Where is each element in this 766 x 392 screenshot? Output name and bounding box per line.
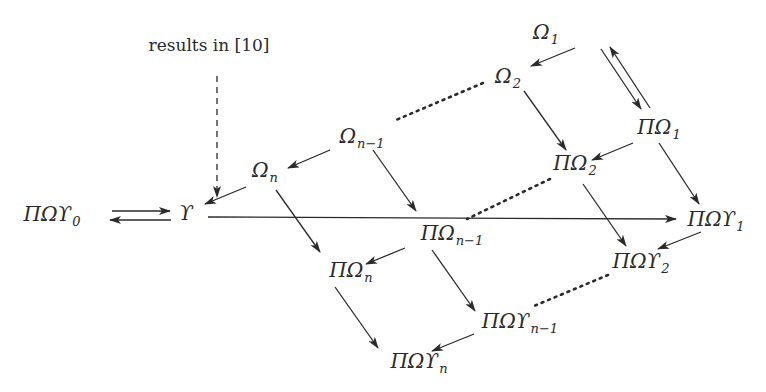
diagram-canvas bbox=[0, 0, 766, 392]
node-pi-omega-upsilon-0: ΠΩϒ0 bbox=[23, 204, 80, 228]
node-pi-omega-n-minus-1-base: ΠΩ bbox=[421, 221, 455, 245]
node-omega-n-minus-1-base: Ω bbox=[339, 124, 356, 148]
node-pi-omega-upsilon-1: ΠΩϒ1 bbox=[687, 209, 744, 233]
node-pi-omega-1-base: ΠΩ bbox=[637, 115, 671, 139]
edge-piomega-n-minus-1-piomegaupsilon-n-minus-1 bbox=[432, 250, 475, 311]
edge-piomega2-piomega-n-minus-1-dotted bbox=[467, 179, 550, 219]
edge-piomega2-piomegaupsilon2 bbox=[583, 184, 626, 246]
edge-omega2-piomega2 bbox=[524, 91, 566, 150]
edge-omega-n-minus-1-piomega-n-minus-1 bbox=[373, 150, 416, 211]
annotation-results-in-10: results in [10] bbox=[149, 35, 270, 55]
node-pi-omega-n-minus-1: ΠΩn−1 bbox=[421, 223, 484, 247]
node-pi-omega-n-minus-1-sub: n−1 bbox=[456, 233, 484, 248]
node-omega-n-minus-1: Ωn−1 bbox=[339, 126, 384, 150]
edge-omega-n-minus-1-omega-n bbox=[288, 150, 330, 168]
node-omega-2: Ω2 bbox=[495, 66, 521, 90]
node-omega-1: Ω1 bbox=[533, 22, 559, 46]
edge-piomega-n-piomegaupsilon-n bbox=[335, 287, 378, 348]
node-pi-omega-n: ΠΩn bbox=[329, 260, 372, 284]
edge-omega1-piomega1 bbox=[601, 49, 641, 109]
node-pi-omega-upsilon-n-minus-1-base: ΠΩϒ bbox=[482, 309, 530, 333]
node-omega-2-sub: 2 bbox=[513, 76, 521, 91]
edge-omega-n-piomega-n bbox=[276, 190, 320, 252]
edge-omega-n-upsilon bbox=[205, 187, 246, 204]
node-pi-omega-1: ΠΩ1 bbox=[637, 117, 680, 141]
node-upsilon-base: ϒ bbox=[179, 201, 193, 225]
edge-omega1-omega2 bbox=[531, 48, 575, 66]
node-pi-omega-upsilon-n: ΠΩϒn bbox=[390, 351, 447, 375]
node-pi-omega-upsilon-n-base: ΠΩϒ bbox=[390, 349, 438, 373]
edge-piomegaupsilon2-piomegaupsilon-n-minus-1-dotted bbox=[534, 275, 608, 306]
node-pi-omega-1-sub: 1 bbox=[672, 127, 680, 142]
edge-piomega1-piomegaupsilon1 bbox=[659, 143, 699, 204]
node-omega-2-base: Ω bbox=[495, 64, 512, 88]
node-pi-omega-upsilon-1-base: ΠΩϒ bbox=[687, 207, 735, 231]
node-omega-1-base: Ω bbox=[533, 20, 550, 44]
node-pi-omega-upsilon-n-minus-1: ΠΩϒn−1 bbox=[482, 311, 558, 335]
node-pi-omega-upsilon-n-sub: n bbox=[439, 361, 447, 376]
node-pi-omega-upsilon-0-base: ΠΩϒ bbox=[23, 202, 71, 226]
node-pi-omega-n-sub: n bbox=[364, 270, 372, 285]
node-omega-n-sub: n bbox=[270, 170, 278, 185]
node-pi-omega-upsilon-2: ΠΩϒ2 bbox=[612, 251, 669, 275]
node-pi-omega-upsilon-0-sub: 0 bbox=[72, 214, 80, 229]
node-pi-omega-n-base: ΠΩ bbox=[329, 258, 363, 282]
node-omega-n-base: Ω bbox=[252, 158, 269, 182]
node-omega-n-minus-1-sub: n−1 bbox=[357, 136, 385, 151]
node-pi-omega-2-base: ΠΩ bbox=[553, 151, 587, 175]
node-omega-1-sub: 1 bbox=[551, 32, 559, 47]
node-pi-omega-2: ΠΩ2 bbox=[553, 153, 596, 177]
node-pi-omega-upsilon-2-sub: 2 bbox=[661, 261, 669, 276]
node-pi-omega-2-sub: 2 bbox=[588, 163, 596, 178]
node-omega-n: Ωn bbox=[252, 160, 278, 184]
node-pi-omega-upsilon-n-minus-1-sub: n−1 bbox=[531, 321, 559, 336]
node-pi-omega-upsilon-2-base: ΠΩϒ bbox=[612, 249, 660, 273]
edge-omega2-omega-n-minus-1-dotted bbox=[396, 83, 483, 120]
node-upsilon: ϒ bbox=[179, 203, 193, 223]
node-pi-omega-upsilon-1-sub: 1 bbox=[736, 219, 744, 234]
edge-piomegaupsilon1-piomegaupsilon2 bbox=[658, 232, 701, 249]
edge-piomega1-piomega2 bbox=[592, 143, 633, 160]
edge-piomega1-omega1 bbox=[610, 47, 650, 108]
